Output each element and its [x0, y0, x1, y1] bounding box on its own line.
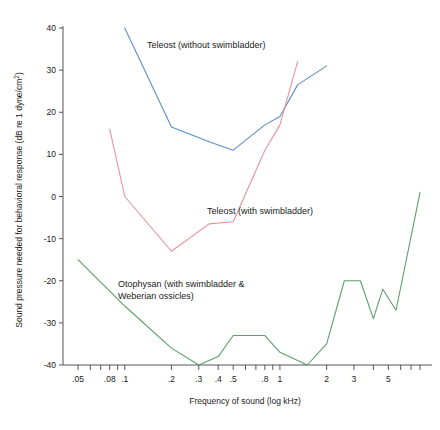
- x-tick-label: .05: [72, 374, 84, 384]
- series-annotations: Teleost (without swimbladder)Teleost (wi…: [118, 40, 313, 301]
- x-tick-label: 1: [278, 374, 283, 384]
- x-tick-label: 2: [324, 374, 329, 384]
- series-annotation-2: Teleost (with swimbladder): [207, 206, 313, 216]
- x-tick-label: .08: [104, 374, 116, 384]
- y-tick-label: 40: [47, 23, 57, 33]
- y-tick-label: -30: [44, 318, 57, 328]
- y-axis-tick-labels: -40-30-20-10010203040: [44, 23, 57, 370]
- x-axis-title: Frequency of sound (log kHz): [189, 396, 301, 406]
- x-tick-label: .4: [215, 374, 222, 384]
- x-tick-label: .8: [261, 374, 268, 384]
- x-tick-label: .2: [168, 374, 175, 384]
- chart-axes: [63, 26, 432, 365]
- x-tick-label: .3: [195, 374, 202, 384]
- x-tick-label: .5: [230, 374, 237, 384]
- y-tick-label: 20: [47, 107, 57, 117]
- series-annotation-4: Weberian ossicles): [118, 291, 194, 301]
- series-annotation-3: Otophysan (with swimbladder &: [118, 279, 245, 289]
- y-axis-title-suffix: ): [14, 72, 24, 75]
- y-axis-title: Sound pressure needed for behavioral res…: [13, 72, 24, 328]
- y-tick-label: -10: [44, 234, 57, 244]
- x-tick-label: 5: [386, 374, 391, 384]
- line-chart: .05.08.1.2.3.4.5.81235 -40-30-20-1001020…: [0, 0, 440, 430]
- y-tick-label: -20: [44, 276, 57, 286]
- series-line-2: [110, 62, 298, 252]
- y-tick-label: 10: [47, 149, 57, 159]
- x-axis-tick-labels: .05.08.1.2.3.4.5.81235: [72, 374, 391, 384]
- chart-figure: .05.08.1.2.3.4.5.81235 -40-30-20-1001020…: [0, 0, 440, 430]
- x-tick-label: 3: [352, 374, 357, 384]
- series-annotation-1: Teleost (without swimbladder): [147, 40, 266, 50]
- y-axis-title-main: Sound pressure needed for behavioral res…: [14, 79, 24, 328]
- y-tick-label: 30: [47, 65, 57, 75]
- chart-series-lines: [78, 28, 420, 365]
- y-tick-label: -40: [44, 360, 57, 370]
- x-tick-label: .1: [121, 374, 128, 384]
- y-tick-label: 0: [51, 192, 56, 202]
- svg-text:Sound pressure needed for beha: Sound pressure needed for behavioral res…: [13, 72, 24, 328]
- chart-tick-marks: [59, 28, 420, 370]
